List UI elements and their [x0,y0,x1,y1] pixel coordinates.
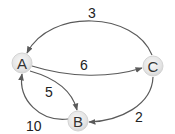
edge-b-to-a: 10 [22,74,68,134]
edge-weight-c-a: 3 [88,5,96,21]
graph-diagram: 3 6 5 10 2 A B C [0,0,175,134]
node-b: B [68,111,88,131]
edge-weight-c-b: 2 [135,109,143,125]
edge-c-to-b: 2 [89,77,153,125]
node-a: A [12,53,32,73]
edge-c-to-a: 3 [27,5,152,55]
node-label-a: A [17,55,27,72]
edge-weight-a-b: 5 [45,84,53,100]
node-c: C [143,56,163,76]
node-label-c: C [148,58,159,75]
edge-weight-b-a: 10 [26,118,42,134]
edge-a-to-c: 6 [32,57,142,75]
edge-a-to-b: 5 [30,71,77,110]
node-label-b: B [73,113,83,130]
edge-weight-a-c: 6 [80,57,88,73]
